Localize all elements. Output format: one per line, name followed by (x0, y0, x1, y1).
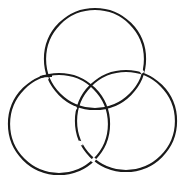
ring-right (76, 71, 176, 171)
ring-top (45, 9, 145, 109)
borromean-rings-diagram (0, 0, 185, 184)
